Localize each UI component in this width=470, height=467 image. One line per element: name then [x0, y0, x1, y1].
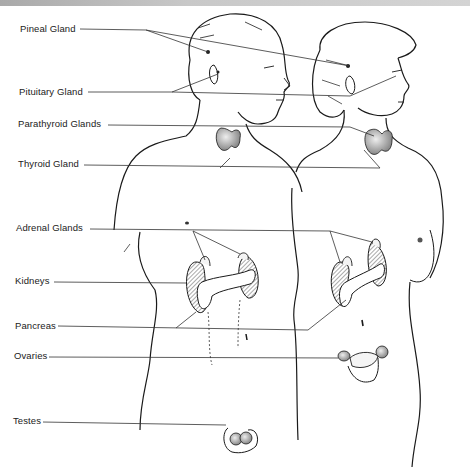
male-figure	[114, 14, 302, 453]
label-pancreas: Pancreas	[15, 320, 58, 331]
label-pituitary-gland: Pituitary Gland	[19, 86, 85, 97]
label-parathyroid-glands: Parathyroid Glands	[18, 118, 103, 129]
label-testes: Testes	[13, 415, 43, 426]
label-ovaries: Ovaries	[14, 350, 49, 361]
endocrine-diagram: Pineal Gland Pituitary Gland Parathyroid…	[0, 0, 470, 467]
leader-lines	[42, 29, 396, 425]
label-thyroid-gland: Thyroid Gland	[18, 158, 81, 169]
anatomy-illustration	[0, 0, 470, 467]
label-pineal-gland: Pineal Gland	[20, 23, 78, 34]
label-adrenal-glands: Adrenal Glands	[16, 222, 85, 233]
label-kidneys: Kidneys	[15, 275, 52, 286]
female-figure	[296, 22, 443, 467]
